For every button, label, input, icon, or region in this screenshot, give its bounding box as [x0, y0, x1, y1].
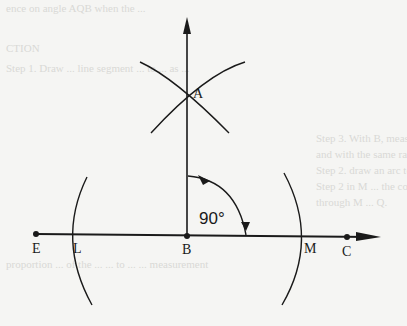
- label-angle-90: 90°: [199, 209, 225, 228]
- point-b: [184, 233, 190, 239]
- point-e: [33, 231, 39, 237]
- construction-diagram: A B E L M C 90°: [0, 0, 407, 326]
- label-e: E: [32, 241, 41, 256]
- label-a: A: [193, 86, 204, 101]
- line-ec: [36, 234, 372, 237]
- arc-upper-left: [140, 62, 229, 133]
- label-c: C: [342, 244, 351, 259]
- diagram-page: ence on angle AQB when the ... CTION Ste…: [0, 0, 407, 326]
- angle-arrow-down-icon: [241, 222, 250, 231]
- arrowhead-right-icon: [356, 232, 381, 241]
- arrowhead-up-icon: [183, 17, 191, 34]
- point-c: [344, 234, 350, 240]
- label-l: L: [73, 241, 82, 256]
- arc-right: [282, 173, 302, 305]
- label-m: M: [304, 241, 317, 256]
- label-b: B: [182, 242, 191, 257]
